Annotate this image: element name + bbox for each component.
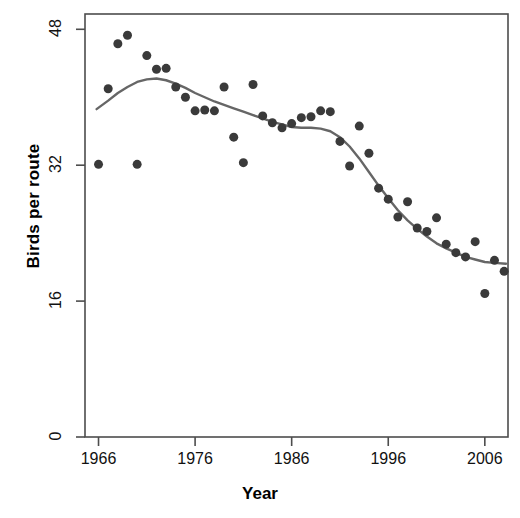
data-point [258,111,267,120]
data-point [471,237,480,246]
data-point [345,162,354,171]
data-point [306,112,315,121]
plot-frame [85,14,508,437]
data-point [393,213,402,222]
data-point [480,289,489,298]
data-point [123,31,132,40]
data-point [432,213,441,222]
data-point [229,133,238,142]
data-point [403,197,412,206]
data-point [500,267,509,276]
chart-figure: Birds per route Year 0163248 19661976198… [0,0,520,518]
data-point [422,227,431,236]
data-point [220,83,229,92]
data-point [297,113,306,122]
data-point [278,123,287,132]
data-point [142,51,151,60]
data-point [268,118,277,127]
data-point [181,93,190,102]
data-point [335,137,344,146]
data-point [94,160,103,169]
loess-smooth-line [97,79,506,264]
data-point [152,65,161,74]
data-point [191,106,200,115]
data-point [461,252,470,261]
data-point [113,39,122,48]
data-point [451,248,460,257]
data-point [442,240,451,249]
scatter-plot-canvas [0,0,520,518]
data-point [364,149,373,158]
data-point [249,80,258,89]
data-point [326,107,335,116]
data-point [162,64,171,73]
data-point [239,158,248,167]
data-point [490,256,499,265]
data-point [210,106,219,115]
data-point [374,184,383,193]
data-point [316,106,325,115]
data-point-group [94,31,509,298]
data-point [200,105,209,114]
data-point [355,122,364,131]
data-point [413,224,422,233]
data-point [287,119,296,128]
data-point [133,160,142,169]
data-point [384,195,393,204]
data-point [171,83,180,92]
data-point [104,84,113,93]
